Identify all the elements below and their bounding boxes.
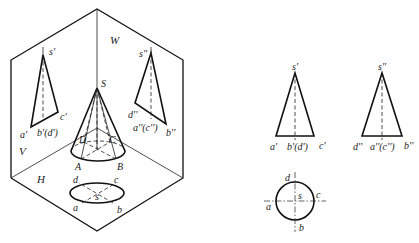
label-a-double-prime-c-double-prime: a''(c'') [133, 122, 158, 134]
label-B: B [117, 161, 123, 172]
side-label-d-double-prime: d'' [353, 141, 363, 152]
label-C: C [109, 134, 116, 145]
label-s: s [95, 191, 99, 202]
label-d-double-prime: d'' [128, 109, 138, 120]
h-plane-projection: s a b c d [70, 174, 124, 215]
w-plane-projection: s'' d'' a''(c'') b'' [128, 47, 176, 138]
cone-projection-diagram: W V H s' a' b'(d') c' s'' d'' a''(c'') b… [0, 0, 419, 243]
top-label-s: s [298, 190, 302, 201]
label-b-double-prime: b'' [166, 127, 176, 138]
front-label-s-prime: s' [292, 61, 299, 72]
cone-3d: S A B C D [71, 78, 125, 172]
label-apex-S: S [101, 78, 106, 89]
label-c-prime: c' [60, 111, 67, 122]
label-D: D [78, 134, 87, 145]
front-view: s' a' b'(d') c' [270, 61, 326, 153]
plane-label-w: W [110, 34, 120, 46]
label-c: c [114, 174, 119, 185]
top-label-a: a [266, 201, 271, 212]
label-s-double-prime: s'' [139, 48, 148, 59]
label-d: d [73, 174, 79, 185]
label-a: a [73, 202, 78, 213]
top-label-b: b [299, 222, 304, 233]
side-label-b-double-prime: b'' [404, 140, 414, 151]
side-label-a-double-prime-c-double-prime: a''(c'') [370, 141, 395, 153]
v-plane-projection: s' a' b'(d') c' [20, 46, 67, 140]
front-label-c-prime: c' [319, 140, 326, 151]
plane-label-h: H [36, 173, 46, 185]
plane-label-v: V [19, 145, 27, 157]
top-label-d: d [285, 172, 291, 183]
label-A: A [74, 161, 82, 172]
front-label-a-prime: a' [270, 141, 278, 152]
label-s-prime: s' [49, 46, 56, 57]
front-label-b-prime-d-prime: b'(d') [287, 141, 309, 153]
top-view: s a b c d [264, 172, 326, 233]
projection-box: W V H s' a' b'(d') c' s'' d'' a''(c'') b… [11, 9, 183, 231]
top-label-c: c [316, 189, 321, 200]
label-b: b [117, 204, 122, 215]
side-view: s'' d'' a''(c'') b'' [353, 61, 414, 153]
label-b-prime-d-prime: b'(d') [37, 127, 59, 139]
side-label-s-double-prime: s'' [378, 61, 387, 72]
label-a-prime: a' [20, 129, 28, 140]
